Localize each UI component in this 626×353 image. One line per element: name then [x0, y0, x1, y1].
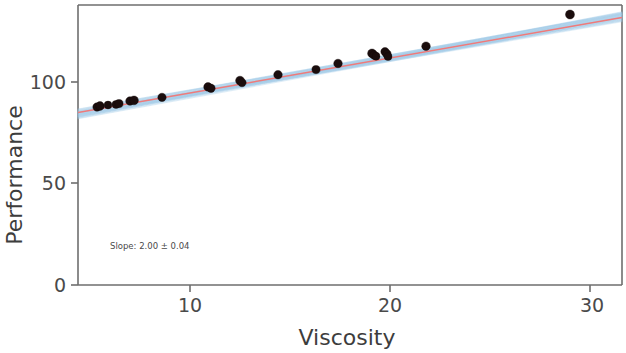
data-point: [372, 52, 380, 60]
x-tick-label: 20: [378, 294, 402, 316]
data-point: [104, 101, 112, 109]
x-axis-title: Viscosity: [299, 325, 396, 350]
data-point: [312, 66, 320, 74]
data-points-group: [93, 10, 575, 111]
data-point: [274, 70, 283, 79]
data-point: [384, 53, 392, 61]
slope-annotation: Slope: 2.00 ± 0.04: [110, 241, 190, 251]
y-axis-title: Performance: [2, 105, 27, 244]
data-point: [207, 84, 215, 92]
y-axis-ticks: 100 50 0: [30, 71, 78, 296]
data-point: [422, 42, 431, 51]
y-tick-label: 100: [30, 71, 66, 93]
data-point: [96, 102, 105, 111]
data-point: [115, 100, 123, 108]
data-point: [334, 59, 343, 68]
chart-figure: 100 50 0 10 20 30 Viscosity Performance …: [0, 0, 626, 353]
y-tick-label: 0: [54, 274, 66, 296]
data-point: [158, 93, 166, 101]
data-point: [566, 10, 575, 19]
x-tick-label: 30: [580, 294, 604, 316]
scatter-plot-svg: 100 50 0 10 20 30 Viscosity Performance …: [0, 0, 626, 353]
data-point: [238, 78, 246, 86]
data-point: [130, 96, 139, 105]
y-tick-label: 50: [42, 172, 66, 194]
x-tick-label: 10: [178, 294, 202, 316]
x-axis-ticks: 10 20 30: [178, 285, 604, 316]
